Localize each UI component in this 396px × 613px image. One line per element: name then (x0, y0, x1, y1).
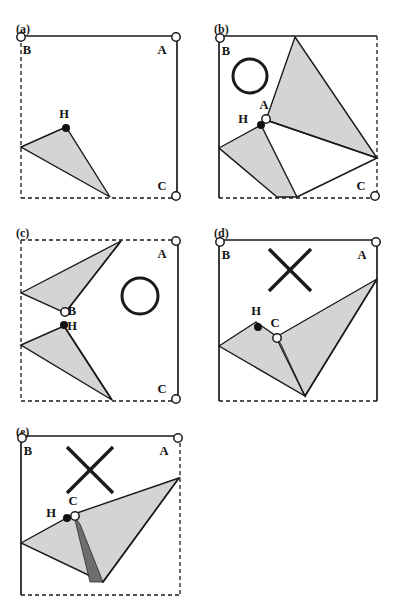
marker-open-a (262, 115, 270, 123)
point-label-a: A (157, 43, 166, 57)
marker-open-a (372, 238, 380, 246)
panel-label-d: (d) (214, 226, 229, 241)
marker-open-a (172, 237, 180, 245)
point-label-a: A (259, 98, 268, 112)
point-label-h: H (251, 304, 261, 318)
edge-line-1 (297, 158, 377, 197)
point-label-h: H (46, 506, 56, 520)
marker-filled-h (257, 121, 265, 129)
point-label-c: C (157, 179, 166, 193)
marker-open-c (273, 334, 281, 342)
point-label-h: H (59, 107, 69, 121)
panel-label-a: (a) (16, 22, 30, 37)
edge-line-0 (103, 478, 179, 582)
point-label-h: H (67, 319, 77, 333)
point-label-b: B (68, 304, 76, 318)
panel-label-e: (e) (16, 425, 29, 440)
region-light-0 (21, 127, 110, 197)
point-label-b: B (222, 44, 230, 58)
panel-label-c: (c) (16, 226, 29, 241)
region-light-0 (21, 478, 179, 582)
edge-line-0 (266, 120, 377, 158)
marker-filled-h (63, 514, 71, 522)
point-label-b: B (24, 444, 32, 458)
marker-filled-h (62, 124, 70, 132)
marker-filled-h (60, 321, 68, 329)
marker-open-c (371, 192, 379, 200)
region-light-1 (219, 125, 297, 197)
annotation-cross-icon (269, 249, 311, 291)
point-label-c: C (356, 179, 365, 193)
marker-open-c (172, 192, 180, 200)
region-dark-2 (276, 337, 305, 396)
point-label-c: C (270, 316, 279, 330)
region-light-1 (276, 279, 377, 396)
point-label-a: A (357, 248, 366, 262)
point-label-a: A (157, 247, 166, 261)
marker-open-a (174, 434, 182, 442)
region-light-0 (266, 37, 377, 158)
marker-open-b (61, 308, 69, 316)
point-label-c: C (157, 382, 166, 396)
edge-line-0 (305, 279, 377, 396)
marker-open-a (172, 33, 180, 41)
marker-filled-h (254, 323, 262, 331)
annotation-circle-icon (233, 59, 267, 93)
point-label-b: B (222, 248, 230, 262)
panel-label-b: (b) (214, 22, 229, 37)
edge-line-0 (65, 241, 121, 313)
region-dark-1 (74, 516, 103, 582)
region-light-0 (219, 322, 305, 396)
annotation-cross-icon (67, 447, 113, 493)
point-label-c: C (68, 494, 77, 508)
point-label-h: H (238, 112, 248, 126)
annotation-circle-icon (122, 278, 158, 314)
marker-open-c (172, 395, 180, 403)
edge-line-1 (64, 326, 112, 400)
region-light-1 (21, 326, 112, 400)
region-light-0 (21, 241, 121, 313)
point-label-b: B (23, 43, 31, 57)
marker-open-c (71, 512, 79, 520)
point-label-a: A (159, 444, 168, 458)
